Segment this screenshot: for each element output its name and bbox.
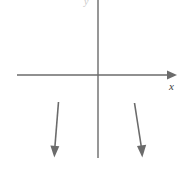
- figure-canvas: x y: [0, 0, 186, 170]
- left-vector-shaft: [55, 102, 59, 148]
- x-axis-arrowhead-icon: [167, 71, 177, 80]
- x-axis-label: x: [168, 80, 174, 92]
- axis-diagram-svg: x y: [0, 0, 186, 170]
- right-vector-shaft: [135, 103, 142, 148]
- right-vector-arrowhead-icon: [137, 145, 146, 158]
- left-vector-arrowhead-icon: [50, 145, 59, 157]
- y-axis-label: y: [83, 0, 89, 7]
